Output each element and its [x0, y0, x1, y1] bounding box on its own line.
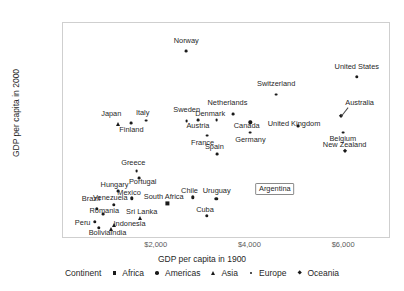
data-point[interactable]	[342, 149, 347, 154]
data-point[interactable]	[191, 196, 194, 199]
data-point[interactable]	[275, 93, 278, 96]
circle-marker-icon	[153, 269, 161, 277]
point-label: Japan	[101, 110, 121, 117]
point-label: United States	[335, 63, 379, 70]
data-point[interactable]	[130, 197, 133, 200]
legend-item-label: Europe	[259, 268, 286, 278]
point-label: Italy	[136, 109, 150, 116]
point-label: Sweden	[173, 106, 200, 113]
legend-item-label: Asia	[221, 268, 238, 278]
legend-item-label: Oceania	[307, 268, 339, 278]
point-label: Austria	[186, 122, 209, 129]
data-point[interactable]	[145, 119, 148, 122]
data-point[interactable]	[215, 118, 218, 121]
scatter-chart: GDP per capita in 2000 GDP per capita in…	[0, 0, 404, 291]
label-leader-line	[341, 107, 349, 116]
point-label: New Zealand	[323, 141, 367, 148]
point-label: Greece	[121, 159, 145, 166]
point-label: Finland	[119, 126, 143, 133]
legend-item-oceania[interactable]: Oceania	[295, 268, 339, 278]
x-tick-label: $2,000	[144, 240, 167, 249]
legend-item-label: Africa	[122, 268, 144, 278]
point-label: Indonesia	[114, 220, 146, 227]
point-label: Germany	[235, 136, 265, 143]
point-label: Romania	[89, 207, 119, 214]
triangle-marker-icon	[209, 269, 217, 277]
data-point[interactable]	[206, 134, 209, 137]
data-point[interactable]	[205, 214, 208, 217]
x-tick-label: $6,000	[332, 240, 355, 249]
data-point[interactable]	[130, 122, 133, 125]
data-point[interactable]	[135, 170, 138, 173]
data-point[interactable]	[93, 220, 96, 223]
plot-panel: NorwayUnited StatesSwitzerlandAustraliaN…	[62, 22, 390, 238]
legend-title: Continent	[65, 268, 101, 278]
point-label: Norway	[174, 37, 199, 44]
point-label: South Africa	[144, 193, 184, 200]
data-point[interactable]	[355, 75, 358, 78]
legend-item-africa[interactable]: Africa	[110, 268, 144, 278]
y-axis-title: GDP per capita in 2000	[11, 53, 21, 173]
point-label: Bolivia	[89, 229, 111, 236]
point-label: Australia	[345, 99, 374, 106]
diamond-marker-icon	[295, 269, 303, 277]
point-label: Spain	[205, 143, 224, 150]
data-point[interactable]	[185, 50, 188, 53]
point-label: United Kingdom	[268, 120, 321, 127]
point-label: India	[110, 229, 126, 236]
legend-item-europe[interactable]: Europe	[247, 268, 286, 278]
data-point[interactable]	[215, 197, 218, 200]
point-label: Switzerland	[257, 80, 295, 87]
point-label: Portugal	[129, 178, 157, 185]
point-label: Uruguay	[203, 187, 231, 194]
data-point[interactable]	[216, 153, 219, 156]
point-label: Sri Lanka	[126, 208, 157, 215]
legend-item-americas[interactable]: Americas	[153, 268, 200, 278]
data-point[interactable]	[166, 202, 169, 205]
x-tick-label: $4,000	[238, 240, 261, 249]
legend-entries: AfricaAmericasAsiaEuropeOceania	[110, 268, 339, 278]
legend: Continent AfricaAmericasAsiaEuropeOceani…	[0, 268, 404, 278]
point-label: Brazil	[82, 195, 100, 202]
legend-item-label: Americas	[165, 268, 200, 278]
point-label: Peru	[75, 219, 91, 226]
point-label: Cuba	[196, 206, 214, 213]
square-marker-icon	[110, 269, 118, 277]
data-point[interactable]	[232, 113, 235, 116]
point-label: Netherlands	[208, 99, 248, 106]
highlighted-point-label[interactable]: Argentina	[255, 183, 295, 195]
point-label: Canada	[234, 122, 260, 129]
legend-item-asia[interactable]: Asia	[209, 268, 238, 278]
x-axis-title: GDP per capita in 1900	[0, 254, 404, 264]
dot-marker-icon	[247, 269, 255, 277]
